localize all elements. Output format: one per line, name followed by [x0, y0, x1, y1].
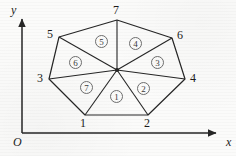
- face-label-6: 6: [69, 56, 82, 69]
- vertex-label-7: 7: [113, 4, 119, 16]
- x-axis-label: x: [226, 136, 231, 148]
- vertex-label-4: 4: [190, 72, 196, 84]
- vertex-label-1: 1: [80, 117, 86, 129]
- vertex-label-6: 6: [177, 29, 183, 41]
- spoke-center-to-6: [117, 38, 172, 70]
- y-axis-label: y: [11, 4, 16, 16]
- origin-label: O: [13, 136, 22, 148]
- spoke-center-to-4: [117, 70, 185, 79]
- vertex-label-3: 3: [37, 72, 43, 84]
- face-label-1: 1: [110, 90, 123, 103]
- face-label-3: 3: [151, 56, 164, 69]
- face-label-7: 7: [80, 81, 93, 94]
- vertex-label-2: 2: [144, 117, 150, 129]
- spoke-center-to-3: [49, 70, 117, 79]
- face-label-5: 5: [95, 35, 108, 48]
- center-node: [115, 68, 119, 72]
- spoke-center-to-5: [59, 37, 117, 70]
- figure-canvas: [0, 0, 236, 156]
- vertex-label-5: 5: [47, 28, 53, 40]
- geometry-figure: y x O 1 2 3 4 5 6 7 1 2 3 4 5 6 7: [0, 0, 236, 156]
- face-label-2: 2: [137, 82, 150, 95]
- face-label-4: 4: [129, 37, 142, 50]
